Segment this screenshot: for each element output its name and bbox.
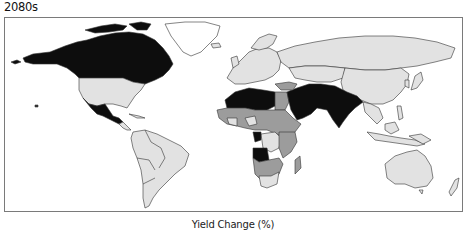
region-caribbean — [129, 114, 145, 118]
region-borneo — [385, 122, 399, 134]
region-north-africa — [225, 88, 275, 110]
region-iceland — [211, 43, 221, 48]
region-east-africa — [279, 132, 297, 158]
region-aleutians — [11, 60, 21, 64]
region-southeast-asia — [363, 102, 383, 124]
region-russia — [277, 36, 455, 70]
region-philippines — [397, 106, 403, 120]
map-frame — [4, 17, 463, 212]
region-japan — [411, 72, 423, 90]
map-title: 2080s — [4, 0, 38, 14]
region-arctic-islands — [85, 24, 127, 33]
region-hawaii — [35, 105, 38, 107]
region-madagascar — [295, 156, 301, 174]
region-greenland — [165, 22, 220, 56]
region-congo — [253, 132, 261, 142]
region-canada — [23, 32, 173, 84]
region-tasmania — [419, 190, 423, 194]
world-map — [5, 18, 464, 213]
region-south-america — [131, 130, 189, 208]
region-arctic-islands-2 — [129, 22, 151, 30]
region-korea — [405, 80, 409, 88]
region-central-america — [119, 122, 131, 130]
region-new-zealand — [449, 178, 459, 196]
region-scandinavia — [251, 34, 277, 50]
region-australia — [385, 150, 433, 188]
region-egypt — [275, 92, 289, 110]
region-west-coast — [227, 118, 237, 126]
region-turkey — [275, 82, 297, 90]
region-central-asia — [289, 66, 345, 82]
legend-caption: Yield Change (%) — [0, 219, 466, 230]
